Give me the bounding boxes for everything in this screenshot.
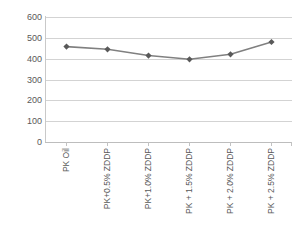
x-tick-label: PK+1.0% ZDDP [144, 148, 153, 209]
x-tick-label: PK + 2.0% ZDDP [226, 148, 235, 214]
x-axis-tick [291, 142, 292, 146]
x-tick-label: PK+0.5% ZDDP [103, 148, 112, 209]
line-chart: 600 500 400 300 200 100 0 PK Oil PK+0.5 [0, 0, 304, 242]
plot-area [46, 17, 292, 142]
y-tick-label: 0 [2, 138, 42, 147]
x-axis-tick [189, 142, 190, 146]
data-point-marker [104, 46, 110, 52]
x-label-slot: PK Oil [59, 148, 73, 240]
y-tick-label: 100 [2, 117, 42, 126]
x-axis-tick [148, 142, 149, 146]
x-tick-label: PK + 2.5% ZDDP [267, 148, 276, 214]
x-label-slot: PK+0.5% ZDDP [100, 148, 114, 240]
x-axis-labels: PK Oil PK+0.5% ZDDP PK+1.0% ZDDP PK + 1.… [46, 148, 292, 240]
x-label-slot: PK + 2.0% ZDDP [223, 148, 237, 240]
data-point-marker [186, 56, 192, 62]
y-tick-label: 200 [2, 96, 42, 105]
x-tick-label: PK + 1.5% ZDDP [185, 148, 194, 214]
x-label-slot: PK + 2.5% ZDDP [264, 148, 278, 240]
data-point-marker [145, 52, 151, 58]
x-tick-label: PK Oil [62, 148, 71, 172]
x-axis-tick [230, 142, 231, 146]
y-axis-labels: 600 500 400 300 200 100 0 [0, 0, 42, 242]
x-axis-tick [271, 142, 272, 146]
y-tick-label: 500 [2, 34, 42, 43]
data-point-marker [268, 39, 274, 45]
x-axis-tick [66, 142, 67, 146]
data-series-line [46, 17, 292, 142]
x-axis-line [45, 142, 292, 143]
series-polyline [67, 42, 272, 59]
data-point-marker [227, 51, 233, 57]
x-label-slot: PK+1.0% ZDDP [141, 148, 155, 240]
y-tick-label: 300 [2, 76, 42, 85]
x-label-slot: PK + 1.5% ZDDP [182, 148, 196, 240]
x-axis-tick [107, 142, 108, 146]
data-point-marker [63, 43, 69, 49]
y-tick-label: 600 [2, 13, 42, 22]
y-tick-label: 400 [2, 55, 42, 64]
